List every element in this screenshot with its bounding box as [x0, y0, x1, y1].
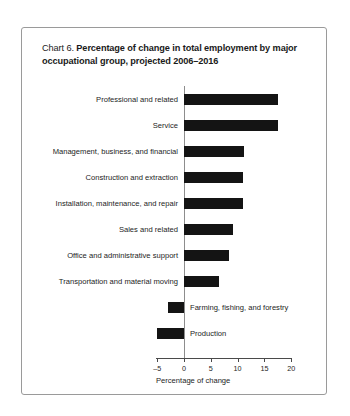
bar: [184, 224, 233, 235]
bar: [184, 146, 244, 157]
bar: [184, 276, 219, 287]
bar: [184, 250, 229, 261]
x-axis-tick-label: 10: [234, 364, 242, 373]
bar: [184, 172, 243, 183]
bar: [184, 198, 243, 209]
chart-bar-row: Farming, fishing, and forestry: [22, 294, 328, 320]
bar-category-label: Farming, fishing, and forestry: [190, 302, 288, 313]
bar-category-label: Transportation and material moving: [59, 276, 178, 287]
chart-bar-row: Sales and related: [22, 216, 328, 242]
x-axis-tick-label: 20: [287, 364, 295, 373]
bar: [168, 302, 184, 313]
bar-category-label: Service: [153, 120, 178, 131]
chart-figure: Chart 6. Percentage of change in total e…: [21, 27, 327, 395]
bar-category-label: Management, business, and financial: [53, 146, 178, 157]
bar-category-label: Professional and related: [96, 94, 178, 105]
bar-category-label: Installation, maintenance, and repair: [56, 198, 178, 209]
bar-category-label: Construction and extraction: [86, 172, 178, 183]
x-axis-tick: [291, 358, 292, 362]
chart-bar-row: Service: [22, 112, 328, 138]
x-axis-tick: [157, 358, 158, 362]
x-axis-title: Percentage of change: [156, 376, 316, 385]
x-axis-tick: [264, 358, 265, 362]
chart-bar-row: Office and administrative support: [22, 242, 328, 268]
chart-bar-row: Production: [22, 320, 328, 346]
x-axis-tick-label: –5: [153, 364, 161, 373]
x-axis-tick: [184, 358, 185, 362]
bar: [157, 328, 184, 339]
x-axis-tick: [211, 358, 212, 362]
chart-bar-row: Transportation and material moving: [22, 268, 328, 294]
x-axis-line: [156, 358, 291, 359]
chart-bar-row: Installation, maintenance, and repair: [22, 190, 328, 216]
x-axis-tick-label: 15: [260, 364, 268, 373]
bar: [184, 120, 278, 131]
chart-bar-row: Management, business, and financial: [22, 138, 328, 164]
chart-bar-row: Construction and extraction: [22, 164, 328, 190]
bar: [184, 94, 278, 105]
bar-category-label: Office and administrative support: [67, 250, 178, 261]
x-axis-tick-label: 0: [182, 364, 186, 373]
chart-bar-row: Professional and related: [22, 86, 328, 112]
plot-area: Percentage of change Professional and re…: [22, 28, 328, 396]
x-axis-tick: [238, 358, 239, 362]
bar-category-label: Production: [190, 328, 226, 339]
x-axis-tick-label: 5: [209, 364, 213, 373]
bar-category-label: Sales and related: [119, 224, 178, 235]
